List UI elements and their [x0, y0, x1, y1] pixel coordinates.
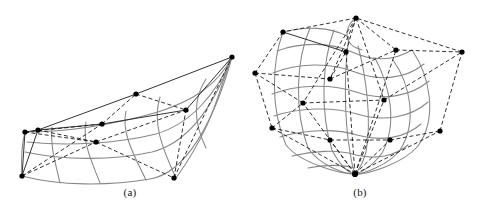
control-point	[133, 91, 138, 96]
figure-container: (a) (b)	[0, 0, 486, 214]
control-point	[35, 127, 40, 132]
mesh-b-longitude-curves	[274, 18, 429, 174]
control-point	[171, 175, 176, 180]
control-point	[19, 173, 24, 178]
control-point	[353, 15, 358, 20]
control-points-a	[19, 54, 234, 180]
control-point	[22, 129, 27, 134]
control-point	[387, 137, 392, 142]
surface-patch-figure	[0, 0, 486, 214]
control-point	[300, 100, 305, 105]
control-point	[93, 139, 98, 144]
control-points-b	[252, 15, 464, 177]
control-point	[252, 70, 257, 75]
subfigure-b	[252, 15, 464, 177]
control-polygon-a-solid	[22, 57, 232, 176]
control-point	[269, 125, 274, 130]
control-point	[327, 137, 332, 142]
control-point	[229, 54, 234, 59]
control-polygon-b-dashed	[255, 18, 462, 174]
control-point	[459, 49, 464, 54]
control-point	[183, 107, 188, 112]
control-point	[327, 76, 332, 81]
control-point	[393, 47, 398, 52]
subfigure-b-caption: (b)	[330, 186, 390, 198]
control-point	[99, 121, 104, 126]
control-point	[343, 49, 348, 54]
control-point	[352, 171, 358, 177]
control-point	[437, 128, 442, 133]
mesh-a-u-curves	[22, 57, 232, 184]
control-point	[280, 29, 285, 34]
control-point	[381, 97, 386, 102]
subfigure-a	[19, 54, 234, 184]
subfigure-a-caption: (a)	[100, 186, 160, 198]
